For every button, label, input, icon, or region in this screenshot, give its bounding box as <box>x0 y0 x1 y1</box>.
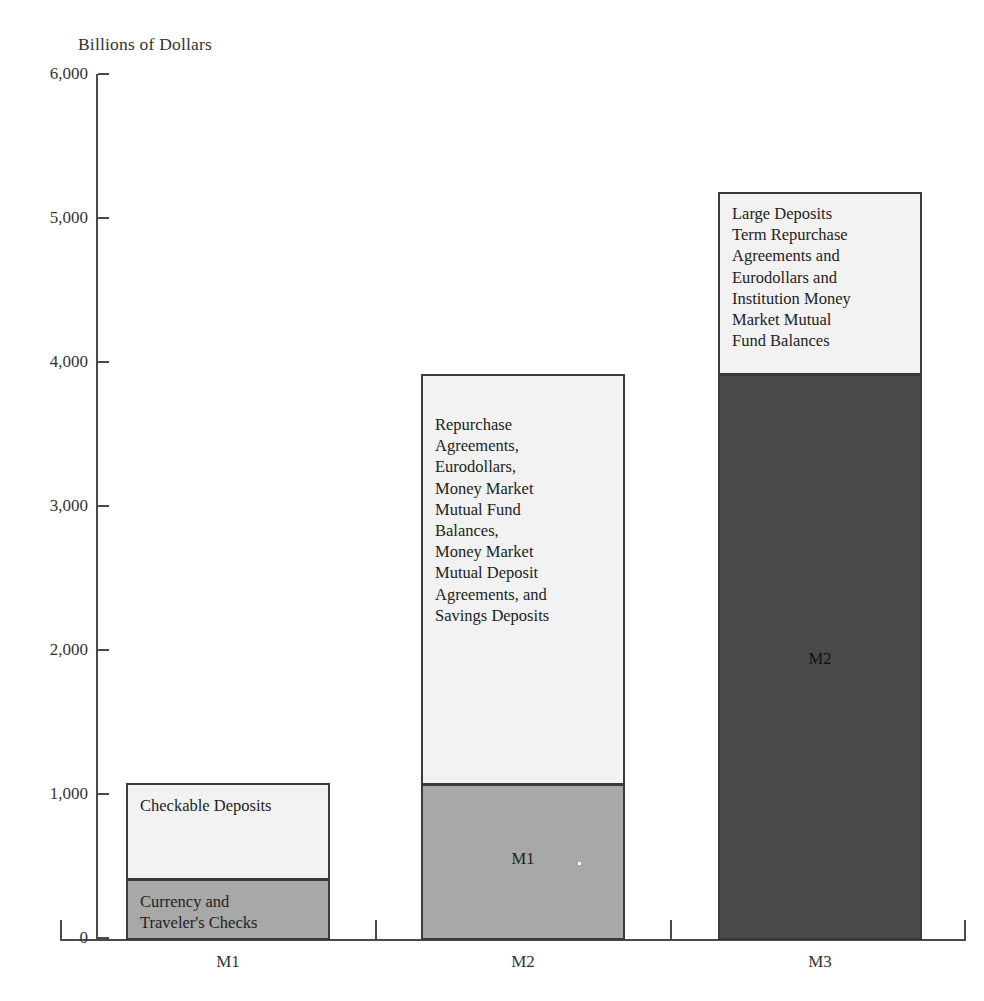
bar-m3-segment-m2: M2 <box>718 374 922 940</box>
x-category-label-m3: M3 <box>718 952 922 972</box>
y-tick-label-4000: 4,000 <box>2 352 88 372</box>
x-tick-right-edge <box>964 920 966 939</box>
y-tick-4000 <box>98 361 109 363</box>
x-tick-left-edge <box>60 920 62 939</box>
scan-artifact-speck <box>578 862 581 865</box>
y-tick-label-5000: 5,000 <box>2 208 88 228</box>
bar-m1-segment-checkable-deposits: Checkable Deposits <box>126 783 330 880</box>
y-tick-1000 <box>98 793 109 795</box>
y-axis-title: Billions of Dollars <box>78 34 212 55</box>
bar-m1-segment-checkable-deposits-label: Checkable Deposits <box>140 795 320 816</box>
y-axis-line <box>96 74 98 940</box>
bar-m2-segment-other-components-label: Repurchase Agreements, Eurodollars, Mone… <box>435 414 615 626</box>
bar-m2-segment-m1: M1 <box>421 784 625 940</box>
y-tick-3000 <box>98 505 109 507</box>
y-tick-2000 <box>98 649 109 651</box>
stacked-bar-chart: Billions of Dollars 6,000 5,000 4,000 3,… <box>0 0 984 1001</box>
x-tick-m1-m2 <box>375 920 377 939</box>
y-tick-6000 <box>98 73 109 75</box>
y-tick-0 <box>98 937 109 939</box>
bar-m3-segment-large-deposits-label: Large Deposits Term Repurchase Agreement… <box>732 203 912 351</box>
y-tick-label-6000: 6,000 <box>2 64 88 84</box>
bar-m1-segment-currency: Currency and Traveler's Checks <box>126 879 330 940</box>
y-tick-5000 <box>98 217 109 219</box>
x-category-label-m1: M1 <box>126 952 330 972</box>
y-tick-label-2000: 2,000 <box>2 640 88 660</box>
x-tick-m2-m3 <box>670 920 672 939</box>
bar-m3-segment-large-deposits: Large Deposits Term Repurchase Agreement… <box>718 192 922 375</box>
x-category-label-m2: M2 <box>421 952 625 972</box>
bar-m2-segment-m1-label: M1 <box>423 848 623 869</box>
y-tick-label-0: 0 <box>2 928 88 948</box>
y-tick-label-1000: 1,000 <box>2 784 88 804</box>
bar-m1-segment-currency-label: Currency and Traveler's Checks <box>140 891 320 933</box>
y-tick-label-3000: 3,000 <box>2 496 88 516</box>
bar-m2-segment-other-components: Repurchase Agreements, Eurodollars, Mone… <box>421 374 625 785</box>
bar-m3-segment-m2-label: M2 <box>720 648 920 669</box>
